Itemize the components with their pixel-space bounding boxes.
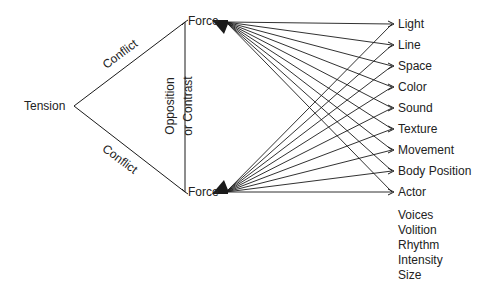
- tension-label: Tension: [24, 99, 65, 113]
- contrast-label: or Contrast: [181, 76, 195, 135]
- actor-attribute-intensity: Intensity: [398, 253, 443, 268]
- opposition-label: Opposition: [163, 77, 177, 134]
- actor-attribute-rhythm: Rhythm: [398, 238, 439, 253]
- element-arrowheads: [388, 21, 394, 195]
- element-light: Light: [398, 17, 424, 31]
- element-texture: Texture: [398, 122, 437, 136]
- element-space: Space: [398, 59, 432, 73]
- element-line: Line: [398, 38, 421, 52]
- element-color: Color: [398, 80, 427, 94]
- force-top-label: Force: [188, 14, 219, 28]
- actor-attribute-size: Size: [398, 268, 421, 283]
- element-body-position: Body Position: [398, 164, 471, 178]
- element-movement: Movement: [398, 143, 454, 157]
- actor-attribute-volition: Volition: [398, 223, 437, 238]
- fan-lines: [212, 20, 392, 194]
- force-bottom-label: Force: [188, 185, 219, 199]
- element-actor: Actor: [398, 185, 426, 199]
- element-sound: Sound: [398, 101, 433, 115]
- actor-attribute-voices: Voices: [398, 208, 433, 223]
